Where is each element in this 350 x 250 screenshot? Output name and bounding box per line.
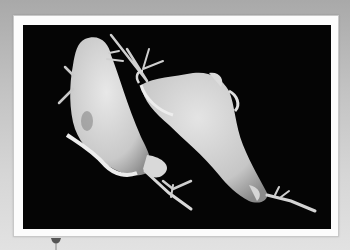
right-organism <box>111 35 315 211</box>
pin-marker-icon <box>50 236 62 250</box>
photo-frame <box>13 15 339 237</box>
organisms-illustration <box>23 25 331 229</box>
micrograph-image <box>23 25 331 229</box>
